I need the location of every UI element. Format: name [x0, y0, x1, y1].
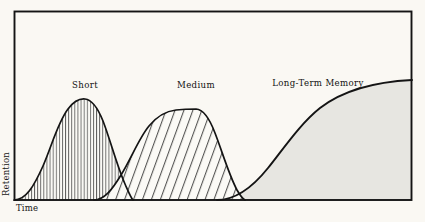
series-label-short: Short — [72, 80, 98, 90]
series-long-term-memory-area — [217, 80, 412, 200]
series-label-medium: Medium — [177, 80, 215, 90]
x-axis-label: Time — [16, 203, 38, 213]
chart-plot-area — [0, 0, 425, 222]
series-label-long-term-memory: Long-Term Memory — [272, 78, 363, 88]
y-axis-label: Retention — [1, 152, 11, 196]
memory-retention-chart: Retention Time Short Medium Long-Term Me… — [0, 0, 425, 222]
